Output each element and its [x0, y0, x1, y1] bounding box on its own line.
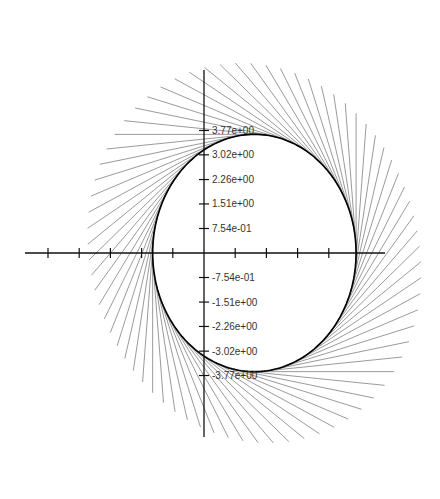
- y-tick-label: -2.26e+00: [212, 321, 258, 332]
- chart-plot: 3.77e+003.02e+002.26e+001.51e+007.54e-01…: [0, 0, 440, 499]
- y-tick-label: 3.02e+00: [212, 149, 254, 160]
- axes: 3.77e+003.02e+002.26e+001.51e+007.54e-01…: [25, 70, 385, 437]
- y-tick-label: -1.51e+00: [212, 297, 258, 308]
- y-tick-label: 3.77e+00: [212, 125, 254, 136]
- y-tick-label: -3.02e+00: [212, 346, 258, 357]
- y-tick-label: 7.54e-01: [212, 223, 252, 234]
- y-tick-label: 1.51e+00: [212, 198, 254, 209]
- y-tick-label: -7.54e-01: [212, 272, 255, 283]
- y-tick-label: 2.26e+00: [212, 174, 254, 185]
- y-tick-label: -3.77e+00: [212, 370, 258, 381]
